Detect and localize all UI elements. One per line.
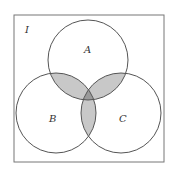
set-label-a: A [83,44,91,55]
set-label-b: B [48,113,56,124]
venn-diagram: I A B C [0,0,173,174]
set-label-c: C [119,113,127,124]
